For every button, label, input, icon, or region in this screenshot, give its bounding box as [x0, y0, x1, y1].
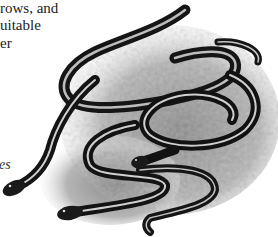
body-text-line-1: rows, and — [0, 0, 58, 17]
book-page: rows, and uitable er es — [0, 0, 278, 237]
body-text-line-3: er — [0, 35, 12, 52]
snake-illustration — [0, 0, 278, 237]
body-text-line-2: uitable — [0, 17, 41, 34]
caption-fragment: es — [0, 157, 11, 173]
